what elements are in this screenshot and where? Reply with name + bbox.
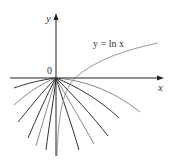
y-axis-arrow-icon [54,13,59,20]
family-curve [56,78,108,136]
ln-curve [57,43,158,156]
x-axis-arrow-icon [157,76,164,81]
x-axis-label: x [157,81,163,93]
ln-curve-label: y = ln x [93,38,124,49]
family-curves [14,78,140,150]
origin-label: 0 [47,65,52,76]
orthogonal-trajectories-figure: y x 0 y = ln x [0,0,174,164]
family-curve [56,78,94,144]
family-curve [14,78,56,88]
family-curve [46,78,56,150]
y-axis-label: y [45,12,51,24]
